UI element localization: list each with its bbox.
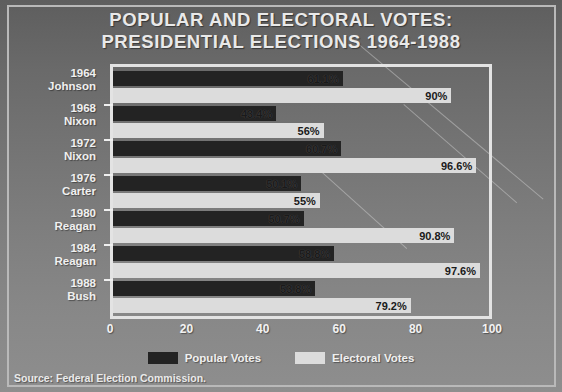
category-label-1984: 1984Reagan bbox=[0, 242, 104, 277]
bar-popular-1972: 60.7% bbox=[113, 141, 341, 156]
bar-value-label: 96.6% bbox=[441, 160, 472, 171]
category-year: 1968 bbox=[0, 102, 96, 115]
bar-popular-1964: 61.1% bbox=[113, 71, 343, 86]
category-president: Johnson bbox=[0, 80, 96, 93]
category-year: 1976 bbox=[0, 172, 96, 185]
x-axis-tick-40: 40 bbox=[256, 322, 269, 336]
bar-electoral-1980: 90.8% bbox=[113, 228, 454, 243]
bar-group-1988: 53.8%79.2% bbox=[113, 280, 489, 315]
chart-slide: POPULAR AND ELECTORAL VOTES: PRESIDENTIA… bbox=[0, 0, 562, 392]
bar-electoral-1972: 96.6% bbox=[113, 158, 476, 173]
bar-electoral-1988: 79.2% bbox=[113, 298, 411, 313]
category-president: Reagan bbox=[0, 220, 96, 233]
x-axis-tick-100: 100 bbox=[482, 322, 502, 336]
bar-electoral-1964: 90% bbox=[113, 88, 451, 103]
bar-value-label: 43.4% bbox=[241, 108, 272, 119]
category-year: 1988 bbox=[0, 277, 96, 290]
x-axis-tick-60: 60 bbox=[333, 322, 346, 336]
chart-title: POPULAR AND ELECTORAL VOTES: PRESIDENTIA… bbox=[0, 9, 562, 53]
bar-value-label: 55% bbox=[294, 195, 316, 206]
bar-electoral-1968: 56% bbox=[113, 123, 324, 138]
axis-tick-mark bbox=[104, 279, 113, 281]
category-label-1976: 1976Carter bbox=[0, 172, 104, 207]
x-axis-tick-0: 0 bbox=[107, 322, 114, 336]
bar-value-label: 58.8% bbox=[299, 248, 330, 259]
category-label-1980: 1980Reagan bbox=[0, 207, 104, 242]
bar-group-1980: 50.7%90.8% bbox=[113, 210, 489, 245]
category-president: Carter bbox=[0, 185, 96, 198]
category-president: Nixon bbox=[0, 115, 96, 128]
bar-popular-1980: 50.7% bbox=[113, 211, 304, 226]
axis-tick-mark bbox=[104, 209, 113, 211]
chart-legend: Popular Votes Electoral Votes bbox=[0, 352, 562, 364]
bar-value-label: 50.1% bbox=[266, 178, 297, 189]
bar-value-label: 79.2% bbox=[376, 300, 407, 311]
category-president: Nixon bbox=[0, 150, 96, 163]
bar-value-label: 56% bbox=[298, 125, 320, 136]
legend-swatch-popular-icon bbox=[148, 352, 178, 364]
bar-value-label: 97.6% bbox=[445, 265, 476, 276]
axis-tick-mark bbox=[104, 174, 113, 176]
bar-value-label: 90.8% bbox=[419, 230, 450, 241]
axis-tick-mark bbox=[104, 244, 113, 246]
bar-group-1984: 58.8%97.6% bbox=[113, 245, 489, 280]
category-label-1968: 1968Nixon bbox=[0, 102, 104, 137]
x-axis-tick-20: 20 bbox=[180, 322, 193, 336]
chart-title-line-2: PRESIDENTIAL ELECTIONS 1964-1988 bbox=[0, 31, 562, 53]
category-label-1988: 1988Bush bbox=[0, 277, 104, 312]
legend-item-popular-votes: Popular Votes bbox=[148, 352, 261, 364]
value-axis: 020406080100 bbox=[110, 322, 492, 340]
chart-title-line-1: POPULAR AND ELECTORAL VOTES: bbox=[0, 9, 562, 31]
bar-group-1968: 43.4%56% bbox=[113, 105, 489, 140]
bar-group-1964: 61.1%90% bbox=[113, 70, 489, 105]
axis-tick-mark bbox=[104, 139, 113, 141]
bar-popular-1968: 43.4% bbox=[113, 106, 276, 121]
category-label-1964: 1964Johnson bbox=[0, 67, 104, 102]
axis-tick-mark bbox=[104, 104, 113, 106]
legend-label-electoral: Electoral Votes bbox=[332, 352, 414, 364]
category-year: 1972 bbox=[0, 137, 96, 150]
bar-electoral-1984: 97.6% bbox=[113, 263, 480, 278]
legend-item-electoral-votes: Electoral Votes bbox=[295, 352, 414, 364]
bar-value-label: 53.8% bbox=[280, 283, 311, 294]
category-axis-labels: 1964Johnson1968Nixon1972Nixon1976Carter1… bbox=[0, 67, 104, 316]
category-president: Reagan bbox=[0, 255, 96, 268]
category-president: Bush bbox=[0, 290, 96, 303]
category-year: 1984 bbox=[0, 242, 96, 255]
bar-popular-1976: 50.1% bbox=[113, 176, 301, 191]
bar-group-1972: 60.7%96.6% bbox=[113, 140, 489, 175]
source-note: Source: Federal Election Commission. bbox=[14, 372, 206, 384]
bars-container: 61.1%90%43.4%56%60.7%96.6%50.1%55%50.7%9… bbox=[113, 67, 489, 316]
x-axis-tick-80: 80 bbox=[409, 322, 422, 336]
bar-value-label: 60.7% bbox=[306, 143, 337, 154]
bar-value-label: 50.7% bbox=[268, 213, 299, 224]
bar-group-1976: 50.1%55% bbox=[113, 175, 489, 210]
legend-swatch-electoral-icon bbox=[295, 352, 325, 364]
bar-value-label: 61.1% bbox=[308, 73, 339, 84]
plot-area: 61.1%90%43.4%56%60.7%96.6%50.1%55%50.7%9… bbox=[110, 64, 492, 319]
legend-label-popular: Popular Votes bbox=[185, 352, 261, 364]
category-year: 1964 bbox=[0, 67, 96, 80]
category-year: 1980 bbox=[0, 207, 96, 220]
bar-popular-1988: 53.8% bbox=[113, 281, 315, 296]
bar-popular-1984: 58.8% bbox=[113, 246, 334, 261]
category-label-1972: 1972Nixon bbox=[0, 137, 104, 172]
bar-value-label: 90% bbox=[425, 90, 447, 101]
bar-electoral-1976: 55% bbox=[113, 193, 320, 208]
